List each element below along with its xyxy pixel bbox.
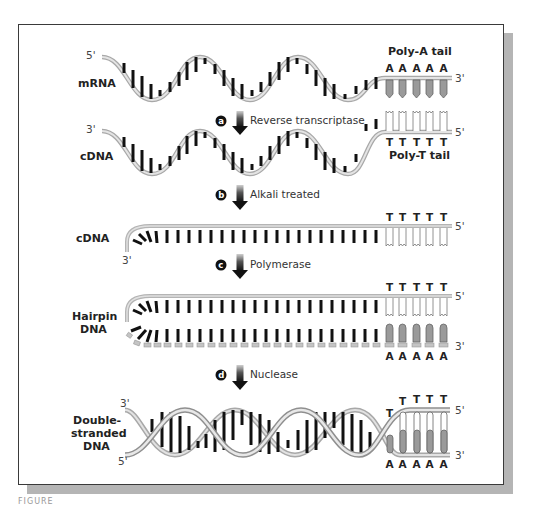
step-c: c Polymerase bbox=[216, 254, 311, 279]
svg-text:A: A bbox=[426, 62, 435, 74]
mrna-3prime-label: 3' bbox=[455, 72, 465, 84]
svg-text:T: T bbox=[413, 393, 421, 405]
cdna2-3prime-label: 3' bbox=[122, 254, 132, 266]
mrna-bases bbox=[124, 57, 376, 99]
hairpin-3prime-label: 3' bbox=[455, 340, 465, 352]
ds-5prime-left-label: 5' bbox=[118, 455, 128, 467]
svg-text:A: A bbox=[399, 62, 408, 74]
svg-text:T: T bbox=[426, 136, 434, 148]
step-d: d Nuclease bbox=[216, 365, 299, 390]
svg-text:b: b bbox=[218, 190, 224, 200]
svg-text:A: A bbox=[386, 62, 395, 74]
svg-text:T: T bbox=[413, 136, 421, 148]
svg-text:c: c bbox=[218, 260, 223, 270]
svg-text:T: T bbox=[386, 281, 394, 293]
down-arrow-icon bbox=[237, 365, 244, 382]
svg-text:T: T bbox=[426, 281, 434, 293]
svg-text:T: T bbox=[386, 407, 394, 419]
figure-caption: FIGURE bbox=[18, 497, 54, 506]
svg-text:T: T bbox=[399, 136, 407, 148]
svg-text:T: T bbox=[399, 281, 407, 293]
ds-label-line2: stranded bbox=[71, 427, 127, 440]
hairpin-5prime-label: 5' bbox=[455, 290, 465, 302]
svg-text:A: A bbox=[386, 458, 395, 470]
hairpin-t-bases: T T T T T bbox=[386, 281, 448, 293]
svg-text:A: A bbox=[426, 458, 435, 470]
svg-text:T: T bbox=[426, 393, 434, 405]
mrna-5prime-label: 5' bbox=[86, 49, 96, 61]
svg-text:T: T bbox=[440, 211, 448, 223]
svg-text:A: A bbox=[413, 458, 422, 470]
ds-3prime-left-label: 3' bbox=[120, 397, 130, 409]
svg-text:A: A bbox=[399, 350, 408, 362]
svg-text:T: T bbox=[440, 136, 448, 148]
hairpin-dna bbox=[126, 296, 452, 347]
svg-text:a: a bbox=[218, 116, 224, 126]
double-stranded-dna bbox=[125, 410, 450, 455]
poly-t-tail bbox=[386, 111, 447, 131]
svg-text:A: A bbox=[399, 458, 408, 470]
ds-label-line3: DNA bbox=[83, 440, 110, 453]
cdna1-5prime-label: 5' bbox=[455, 126, 465, 138]
ds-5prime-right-label: 5' bbox=[455, 404, 465, 416]
ds-a-bases: A A A A A bbox=[386, 458, 449, 470]
poly-a-tail bbox=[386, 80, 447, 98]
svg-text:T: T bbox=[440, 393, 448, 405]
svg-text:T: T bbox=[386, 211, 394, 223]
down-arrow-icon bbox=[237, 185, 244, 202]
step-c-label: Polymerase bbox=[250, 258, 311, 270]
cdna-synthesis-diagram: 5' mRNA 3' Poly-A tail A A A A A bbox=[0, 0, 556, 512]
svg-text:T: T bbox=[440, 281, 448, 293]
ds-label-line1: Double- bbox=[73, 414, 121, 427]
poly-a-bases: A A A A A bbox=[386, 62, 449, 74]
svg-text:A: A bbox=[413, 350, 422, 362]
hairpin-a-bases-shapes bbox=[386, 324, 447, 342]
poly-a-tail-label: Poly-A tail bbox=[388, 45, 452, 58]
cdna1-label: cDNA bbox=[80, 150, 114, 163]
poly-t-tail-label: Poly-T tail bbox=[389, 149, 450, 162]
down-arrow-icon bbox=[237, 254, 244, 271]
svg-text:A: A bbox=[440, 62, 449, 74]
svg-text:A: A bbox=[440, 350, 449, 362]
svg-text:T: T bbox=[399, 395, 407, 407]
svg-text:A: A bbox=[386, 350, 395, 362]
svg-text:T: T bbox=[413, 281, 421, 293]
svg-text:T: T bbox=[413, 211, 421, 223]
step-a-label: Reverse transcriptase bbox=[250, 114, 365, 126]
step-d-label: Nuclease bbox=[250, 368, 298, 380]
hairpin-label-line2: DNA bbox=[80, 323, 107, 336]
step-b-label: Alkali treated bbox=[250, 188, 320, 200]
mrna-label: mRNA bbox=[78, 77, 116, 90]
step-b: b Alkali treated bbox=[216, 185, 320, 210]
svg-text:A: A bbox=[440, 458, 449, 470]
svg-text:T: T bbox=[386, 136, 394, 148]
svg-text:A: A bbox=[413, 62, 422, 74]
hairpin-label-line1: Hairpin bbox=[72, 310, 117, 323]
cdna-strand-folded bbox=[127, 226, 452, 252]
svg-text:T: T bbox=[399, 211, 407, 223]
svg-text:d: d bbox=[218, 370, 224, 380]
cdna2-label: cDNA bbox=[76, 232, 110, 245]
cdna1-3prime-label: 3' bbox=[86, 123, 96, 135]
down-arrow-icon bbox=[237, 111, 244, 127]
svg-text:A: A bbox=[426, 350, 435, 362]
hairpin-a-bases: A A A A A bbox=[386, 350, 449, 362]
ds-3prime-right-label: 3' bbox=[455, 449, 465, 461]
svg-text:T: T bbox=[426, 211, 434, 223]
poly-t-bases: T T T T T bbox=[386, 136, 448, 148]
cdna2-t-bases: T T T T T bbox=[386, 211, 448, 223]
cdna2-5prime-label: 5' bbox=[455, 220, 465, 232]
